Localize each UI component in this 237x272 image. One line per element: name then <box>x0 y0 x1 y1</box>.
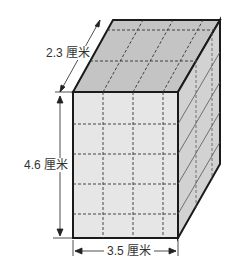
depth-label: 2.3 厘米 <box>46 46 90 60</box>
width-label: 3.5 厘米 <box>104 244 154 258</box>
prism-diagram <box>0 0 237 272</box>
front-face <box>73 92 178 238</box>
height-label: 4.6 厘米 <box>24 158 68 172</box>
